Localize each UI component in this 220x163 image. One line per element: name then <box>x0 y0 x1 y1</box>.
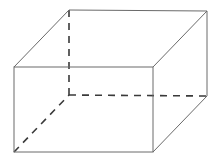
edge-top-left-depth <box>14 10 69 67</box>
edge-back-top <box>69 10 207 11</box>
hidden-edges <box>14 10 207 152</box>
cuboid-diagram <box>0 0 220 163</box>
front-face <box>14 67 153 152</box>
edge-top-right-depth <box>153 11 207 67</box>
hidden-edge-bottom-left-depth <box>14 95 69 152</box>
edge-bottom-right-depth <box>153 96 207 152</box>
visible-edges <box>14 10 207 152</box>
hidden-edge-back-bottom <box>69 95 207 96</box>
